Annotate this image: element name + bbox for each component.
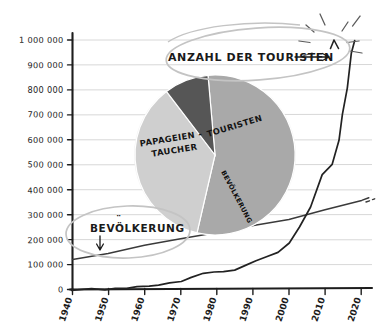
tourist-curve-arrowhead <box>331 40 339 49</box>
y-axis-tick-label: 600 000 <box>28 135 64 145</box>
x-axis-tick-label: 2020 <box>346 296 363 323</box>
x-axis-tick-label: 1970 <box>165 296 182 323</box>
y-axis-tick-label: 700 000 <box>27 109 63 120</box>
population-annotation-arrow-icon <box>97 236 104 250</box>
x-axis-tick-label: 2000 <box>274 296 291 323</box>
y-axis-tick-label: 100 000 <box>28 260 64 270</box>
x-axis-tick-label: 1960 <box>129 296 146 323</box>
pie-chart: PAPAGEIEN - TAUCHER TOURISTEN BEVÖLKERUN… <box>134 75 296 235</box>
y-axis-labels: 1 000 000900 000800 000700 000600 000500… <box>19 35 64 295</box>
x-axis-labels: 194019501960197019801990200020102020 <box>57 296 363 323</box>
x-axis-tick-label: 2010 <box>310 296 327 323</box>
x-axis-tick-label: 1940 <box>57 296 74 323</box>
x-axis-tick-label: 1980 <box>201 296 218 323</box>
y-axis-tick-label: 200 000 <box>27 235 63 246</box>
y-axis-tick-label: 900 000 <box>27 60 63 70</box>
y-axis-tick-label: 1 000 000 <box>19 35 63 45</box>
hand-drawn-tourism-chart: 1 000 000900 000800 000700 000600 000500… <box>0 0 384 336</box>
population-annotation-label: BEVÖLKERUNG <box>90 221 185 234</box>
y-axis-tick-label: 800 000 <box>28 85 64 95</box>
y-axis-tick-label: 500 000 <box>27 159 63 170</box>
y-axis-tick-label: 300 000 <box>27 210 63 220</box>
chart-canvas: 1 000 000900 000800 000700 000600 000500… <box>0 0 384 336</box>
y-axis-tick-label: 400 000 <box>27 185 63 196</box>
population-annotation-umlaut: ¨ <box>116 213 122 225</box>
population-line-tail <box>366 199 375 202</box>
x-axis-tick-label: 1990 <box>238 296 255 323</box>
y-axis-tick-label: 0 <box>58 285 64 295</box>
x-axis-tick-label: 1950 <box>93 296 110 323</box>
